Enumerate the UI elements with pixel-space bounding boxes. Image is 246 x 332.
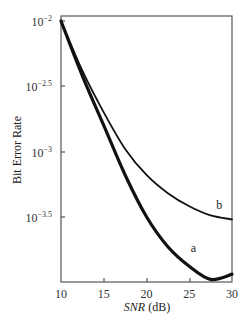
x-tick-labels: 1015202530 <box>55 287 238 301</box>
x-tick-label: 30 <box>226 287 238 301</box>
y-axis-label: Bit Error Rate <box>10 116 24 184</box>
plot-frame <box>61 16 232 282</box>
y-tick-labels: 10−210−2.510−310−3.5 <box>25 14 52 225</box>
x-axis-label: SNR (dB) <box>124 300 170 314</box>
series-b-line <box>61 21 232 219</box>
annotations: ab <box>191 198 222 255</box>
x-tick-label: 20 <box>141 287 153 301</box>
y-tick-label: 10−2.5 <box>25 79 52 94</box>
curve-label-a: a <box>191 241 197 255</box>
series-lines <box>61 21 232 280</box>
x-tick-label: 25 <box>183 287 195 301</box>
curve-label-b: b <box>216 198 222 212</box>
y-tick-label: 10−2 <box>31 14 52 29</box>
x-tick-label: 15 <box>98 287 110 301</box>
y-tick-label: 10−3 <box>31 145 52 160</box>
y-tick-label: 10−3.5 <box>25 210 52 225</box>
series-a-line <box>61 21 232 280</box>
x-tick-label: 10 <box>55 287 67 301</box>
chart: 10−210−2.510−310−3.5 1015202530 Bit Erro… <box>0 0 246 332</box>
